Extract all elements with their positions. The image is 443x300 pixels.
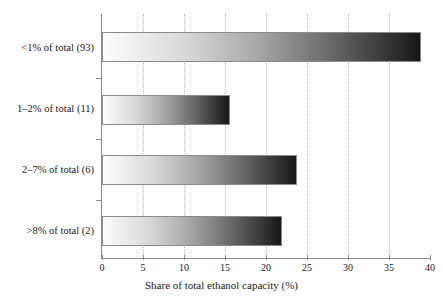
x-tick-6 (348, 255, 349, 260)
bar-chart-figure: <1% of total (93) 1–2% of total (11) 2–7… (0, 0, 443, 300)
y-tick-0 (96, 78, 102, 79)
bar-category-2 (102, 155, 297, 185)
y-tick-1 (96, 139, 102, 140)
category-label-2: 2–7% of total (6) (22, 163, 94, 176)
x-axis-title: Share of total ethanol capacity (%) (0, 278, 443, 292)
category-label-1: 1–2% of total (11) (17, 102, 94, 115)
x-tick-7 (389, 255, 390, 260)
x-tick-label-5: 25 (292, 262, 322, 274)
x-tick-label-7: 35 (374, 262, 404, 274)
bar-category-3 (102, 216, 282, 246)
x-tick-2 (184, 255, 185, 260)
x-tick-label-3: 15 (210, 262, 240, 274)
x-tick-3 (225, 255, 226, 260)
x-tick-1 (143, 255, 144, 260)
x-tick-5 (307, 255, 308, 260)
x-tick-label-2: 10 (169, 262, 199, 274)
x-tick-label-4: 20 (251, 262, 281, 274)
x-tick-label-8: 40 (415, 262, 443, 274)
y-tick-2 (96, 200, 102, 201)
plot-area (102, 14, 430, 258)
x-tick-4 (266, 255, 267, 260)
x-tick-8 (430, 255, 431, 260)
x-tick-0 (102, 255, 103, 260)
bar-category-0 (102, 32, 421, 62)
category-label-3: >8% of total (2) (27, 224, 94, 237)
bar-category-1 (102, 95, 230, 125)
category-label-0: <1% of total (93) (21, 41, 94, 54)
x-tick-label-6: 30 (333, 262, 363, 274)
x-tick-label-0: 0 (87, 262, 117, 274)
x-tick-label-1: 5 (128, 262, 158, 274)
